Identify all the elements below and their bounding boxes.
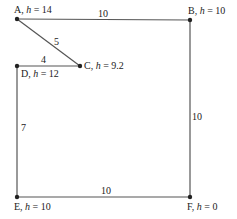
edge-weight-a-c: 5 — [54, 36, 59, 47]
node-f — [188, 195, 192, 199]
node-label-b: B, h = 10 — [188, 5, 225, 16]
edge-weight-d-c: 4 — [41, 54, 46, 65]
node-c — [78, 64, 82, 68]
node-label-e: E, h = 10 — [14, 201, 51, 212]
edge-weight-e-f: 10 — [101, 185, 111, 196]
node-label-f: F, h = 0 — [187, 201, 217, 212]
node-label-a: A, h = 14 — [14, 4, 52, 15]
edge-weight-a-b: 10 — [98, 8, 108, 19]
node-a — [15, 17, 19, 21]
edge-a-b — [17, 19, 190, 20]
node-e — [15, 195, 19, 199]
edge-weight-b-f: 10 — [192, 111, 202, 122]
edge-weight-d-e: 7 — [21, 122, 26, 133]
node-b — [188, 18, 192, 22]
graph-diagram: A, h = 14 B, h = 10 C, h = 9.2 D, h = 12… — [0, 0, 237, 219]
edge-a-c — [17, 19, 80, 66]
node-d — [15, 64, 19, 68]
node-label-d: D, h = 12 — [21, 68, 59, 79]
node-label-c: C, h = 9.2 — [84, 60, 124, 71]
